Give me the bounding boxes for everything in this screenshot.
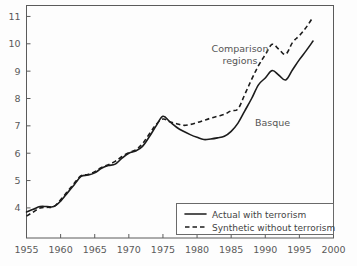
- x-tick-label-1995: 1995: [287, 244, 311, 255]
- x-tick-label-1965: 1965: [83, 244, 107, 255]
- x-tick-label-1970: 1970: [117, 244, 141, 255]
- y-axis-ticks: [27, 16, 31, 207]
- y-tick-label-10: 10: [8, 38, 20, 49]
- y-tick-label-4: 4: [14, 202, 20, 213]
- y-tick-label-7: 7: [14, 120, 20, 131]
- y-axis-tick-labels: 4567891011: [8, 11, 20, 213]
- x-axis-tick-labels: 1955196019651970197519801985199019952000: [14, 244, 345, 255]
- annotation-basque: Basque: [255, 117, 290, 128]
- x-tick-label-2000: 2000: [321, 244, 345, 255]
- y-tick-label-5: 5: [14, 175, 20, 186]
- basque-gdp-line-chart: 4567891011 19551960196519701975198019851…: [0, 0, 357, 266]
- y-tick-label-6: 6: [14, 148, 20, 159]
- annotation-comparison-regions-line1: Comparison: [212, 43, 269, 54]
- x-tick-label-1975: 1975: [151, 244, 175, 255]
- x-tick-label-1985: 1985: [219, 244, 243, 255]
- x-tick-label-1955: 1955: [14, 244, 38, 255]
- y-tick-label-11: 11: [8, 11, 20, 22]
- chart-container: 4567891011 19551960196519701975198019851…: [0, 0, 357, 266]
- y-tick-label-9: 9: [14, 66, 20, 77]
- legend: Actual with terrorism Synthetic without …: [177, 204, 336, 235]
- x-tick-label-1980: 1980: [185, 244, 209, 255]
- annotation-comparison-regions-line2: regions: [223, 55, 258, 66]
- y-tick-label-8: 8: [14, 93, 20, 104]
- x-tick-label-1960: 1960: [49, 244, 73, 255]
- legend-label-actual: Actual with terrorism: [212, 210, 306, 220]
- legend-label-synthetic: Synthetic without terrorism: [212, 223, 335, 233]
- x-tick-label-1990: 1990: [253, 244, 277, 255]
